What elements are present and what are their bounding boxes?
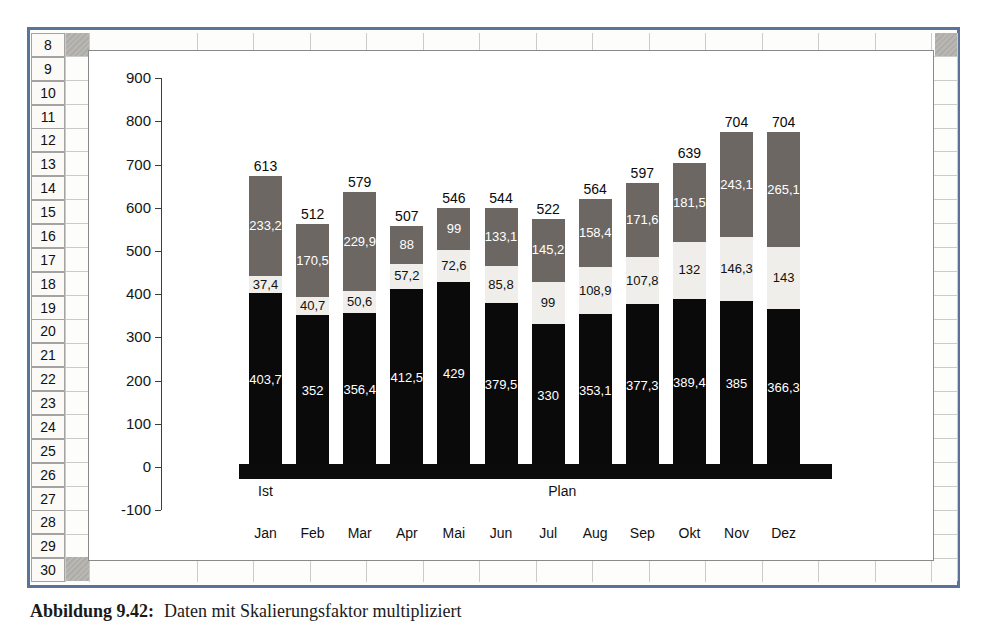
group-label-ist: Ist xyxy=(236,483,296,499)
y-axis-label: 0 xyxy=(103,458,151,476)
bar-total-label: 512 xyxy=(283,206,343,222)
y-axis-tick xyxy=(155,424,161,425)
row-header-cell[interactable]: 26 xyxy=(31,463,65,487)
figure-caption-text: Daten mit Skalierungsfaktor multiplizier… xyxy=(164,601,461,621)
month-label: Sep xyxy=(619,525,665,541)
y-axis-tick xyxy=(155,337,161,338)
segment-label: 88 xyxy=(377,237,437,253)
bar-total-label: 704 xyxy=(754,114,814,130)
y-axis-label: 500 xyxy=(103,242,151,260)
y-axis-label: 400 xyxy=(103,285,151,303)
y-axis-label: 200 xyxy=(103,372,151,390)
y-axis-label: 600 xyxy=(103,199,151,217)
y-axis-label: 300 xyxy=(103,328,151,346)
row-header-cell[interactable]: 22 xyxy=(31,367,65,391)
row-header-cell[interactable]: 30 xyxy=(31,558,65,582)
row-header-cell[interactable]: 18 xyxy=(31,272,65,296)
row-header-cell[interactable]: 12 xyxy=(31,128,65,152)
shaded-cell-top-right[interactable] xyxy=(935,33,957,56)
y-axis-label: -100 xyxy=(103,501,151,519)
month-label: Apr xyxy=(384,525,430,541)
row-header-cell[interactable]: 13 xyxy=(31,152,65,176)
y-axis-tick xyxy=(155,121,161,122)
row-header-cell[interactable]: 10 xyxy=(31,81,65,105)
segment-label: 171,6 xyxy=(612,212,672,228)
y-axis-tick xyxy=(155,294,161,295)
row-header-cell[interactable]: 11 xyxy=(31,105,65,129)
row-header-cell[interactable]: 15 xyxy=(31,200,65,224)
bar-total-label: 564 xyxy=(565,181,625,197)
row-header-cell[interactable]: 21 xyxy=(31,343,65,367)
row-header-cell[interactable]: 24 xyxy=(31,415,65,439)
y-axis-tick xyxy=(155,78,161,79)
segment-label: 72,6 xyxy=(424,258,484,274)
y-axis-label: 800 xyxy=(103,112,151,130)
segment-label: 145,2 xyxy=(518,242,578,258)
month-label: Feb xyxy=(290,525,336,541)
month-label: Mai xyxy=(431,525,477,541)
month-label: Jan xyxy=(243,525,289,541)
segment-label: 170,5 xyxy=(283,253,343,269)
month-label: Aug xyxy=(572,525,618,541)
month-label: Jul xyxy=(525,525,571,541)
row-header-cell[interactable]: 9 xyxy=(31,57,65,81)
month-label: Dez xyxy=(761,525,807,541)
segment-label: 85,8 xyxy=(471,277,531,293)
y-axis-tick xyxy=(155,510,161,511)
bar-total-label: 579 xyxy=(330,174,390,190)
y-axis-tick xyxy=(155,467,161,468)
month-label: Mar xyxy=(337,525,383,541)
y-axis-line xyxy=(161,78,162,510)
segment-label: 37,4 xyxy=(236,277,296,293)
shaded-cell-top-left[interactable] xyxy=(66,33,89,56)
month-label: Okt xyxy=(666,525,712,541)
segment-label: 50,6 xyxy=(330,294,390,310)
y-axis-tick xyxy=(155,165,161,166)
y-axis-label: 100 xyxy=(103,415,151,433)
row-header-cell[interactable]: 8 xyxy=(31,33,65,57)
figure-caption-number: Abbildung 9.42: xyxy=(30,601,154,621)
bar-total-label: 597 xyxy=(612,165,672,181)
chart-object[interactable]: Ist Plan 9008007006005004003002001000-10… xyxy=(88,50,934,561)
segment-label: 181,5 xyxy=(659,195,719,211)
y-axis-tick xyxy=(155,251,161,252)
row-header-cell[interactable]: 23 xyxy=(31,391,65,415)
y-axis-tick xyxy=(155,381,161,382)
y-axis-label: 900 xyxy=(103,69,151,87)
row-header-cell[interactable]: 27 xyxy=(31,487,65,511)
row-header-cell[interactable]: 14 xyxy=(31,176,65,200)
row-header-cell[interactable]: 19 xyxy=(31,296,65,320)
y-axis-tick xyxy=(155,208,161,209)
figure-caption: Abbildung 9.42:Daten mit Skalierungsfakt… xyxy=(30,601,970,622)
row-header-cell[interactable]: 28 xyxy=(31,510,65,534)
bar-total-label: 639 xyxy=(659,145,719,161)
row-header-cell[interactable]: 29 xyxy=(31,534,65,558)
y-axis-label: 700 xyxy=(103,156,151,174)
bar-total-label: 522 xyxy=(518,201,578,217)
month-label: Jun xyxy=(478,525,524,541)
segment-label: 265,1 xyxy=(754,182,814,198)
segment-label: 143 xyxy=(754,270,814,286)
row-header-cell[interactable]: 17 xyxy=(31,248,65,272)
row-header-cell[interactable]: 16 xyxy=(31,224,65,248)
sheet-gridline-header-edge xyxy=(65,33,66,582)
group-label-plan: Plan xyxy=(532,483,592,499)
x-axis-band xyxy=(239,464,832,479)
month-label: Nov xyxy=(714,525,760,541)
shaded-cell-bottom-left[interactable] xyxy=(66,557,89,581)
bar-total-label: 613 xyxy=(236,158,296,174)
sheet-gridline-right xyxy=(957,33,958,581)
row-header-cell[interactable]: 20 xyxy=(31,319,65,343)
segment-label: 366,3 xyxy=(754,380,814,396)
row-header-cell[interactable]: 25 xyxy=(31,439,65,463)
